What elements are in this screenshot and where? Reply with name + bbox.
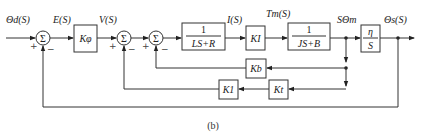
sum3-minus: − bbox=[161, 44, 169, 54]
svg-text:KI: KI bbox=[250, 33, 262, 44]
svg-text:LS+R: LS+R bbox=[191, 38, 215, 49]
label-input: Θd(S) bbox=[6, 14, 31, 26]
block-diagram: Σ + − Kφ Σ + − Σ + − 1 LS+R KI 1 JS+ bbox=[0, 0, 426, 135]
mechanical-block: 1 JS+B bbox=[288, 23, 330, 50]
svg-text:Kb: Kb bbox=[249, 63, 262, 74]
svg-text:1: 1 bbox=[201, 24, 206, 35]
sum-junction-1: Σ bbox=[36, 31, 50, 45]
svg-text:Kφ: Kφ bbox=[78, 33, 92, 44]
label-output: Θs(S) bbox=[384, 14, 407, 26]
sum-junction-3: Σ bbox=[149, 31, 163, 45]
svg-text:S: S bbox=[368, 40, 373, 51]
svg-text:K1: K1 bbox=[222, 84, 235, 95]
k-phi-block: Kφ bbox=[74, 25, 97, 52]
electrical-block: 1 LS+R bbox=[182, 23, 225, 50]
label-current: I(S) bbox=[226, 14, 243, 26]
k-b-block: Kb bbox=[246, 59, 266, 78]
sum3-plus: + bbox=[142, 41, 150, 51]
svg-text:1: 1 bbox=[307, 24, 312, 35]
svg-text:Σ: Σ bbox=[153, 33, 159, 44]
sum2-plus: + bbox=[109, 41, 117, 51]
svg-text:Σ: Σ bbox=[40, 33, 46, 44]
k-i-block: KI bbox=[246, 26, 265, 50]
label-torque: Tm(S) bbox=[266, 8, 291, 20]
k-1-block: K1 bbox=[219, 80, 238, 99]
svg-text:Σ: Σ bbox=[121, 33, 127, 44]
sum-junction-2: Σ bbox=[117, 31, 131, 45]
k-t-block: Kt bbox=[269, 80, 288, 99]
sum1-minus: − bbox=[47, 44, 55, 54]
figure-caption: (b) bbox=[207, 120, 219, 132]
label-voltage: V(S) bbox=[99, 14, 117, 26]
svg-text:η: η bbox=[368, 26, 373, 37]
sum2-minus: − bbox=[128, 44, 136, 54]
svg-text:Kt: Kt bbox=[273, 84, 284, 95]
label-speed: SΘm bbox=[337, 14, 356, 25]
sum1-plus: + bbox=[30, 41, 38, 51]
gear-block: η S bbox=[361, 25, 380, 52]
label-error: E(S) bbox=[52, 14, 71, 26]
svg-text:JS+B: JS+B bbox=[298, 38, 320, 49]
